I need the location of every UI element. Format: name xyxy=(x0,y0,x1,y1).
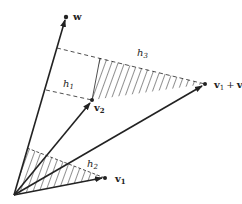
label-v1: v1 xyxy=(114,173,126,186)
label-h1: h1 xyxy=(63,78,74,91)
vector-v1-plus-v2 xyxy=(14,86,202,195)
v1-plus-v2-tip-dot xyxy=(203,82,207,86)
v1-tip-dot xyxy=(103,176,107,180)
vector-diagram: w v2 v1+v2 v1 h1 h2 h3 xyxy=(0,0,242,204)
w-tip-dot xyxy=(64,15,68,19)
label-v1-plus-v2: v1+v2 xyxy=(213,79,242,92)
label-w: w xyxy=(72,11,82,22)
label-h3: h3 xyxy=(137,47,148,60)
label-h2: h2 xyxy=(87,158,98,171)
h1-dashed-line xyxy=(46,90,92,100)
label-v2: v2 xyxy=(93,102,105,115)
